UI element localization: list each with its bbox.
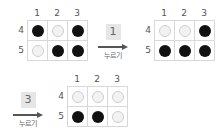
cell-4-3 [108,87,128,107]
action-press-3: 3 누르기 [13,88,43,128]
empty-dot-icon [52,25,64,37]
press-label: 누르기 [98,52,128,60]
column-labels: 1 2 3 [67,74,127,84]
cell-4-2 [88,87,108,107]
filled-dot-icon [159,45,171,57]
column-label: 3 [194,8,214,18]
cell-4-1 [68,87,88,107]
cell-5-3 [108,107,128,127]
filled-dot-icon [199,25,211,37]
column-label: 2 [174,8,194,18]
column-label: 2 [47,8,67,18]
filled-dot-icon [92,111,104,123]
arrow-right-icon [13,112,43,118]
cell-5-3 [68,41,88,61]
cell-5-1 [155,41,175,61]
cell-5-3 [195,41,215,61]
cell-5-1 [28,41,48,61]
toggle-grid [154,20,215,61]
key-badge: 1 [106,24,121,40]
press-label: 누르기 [13,120,43,128]
column-label: 3 [67,8,87,18]
cell-4-1 [155,21,175,41]
action-press-1: 1 누르기 [98,20,128,60]
cell-4-2 [175,21,195,41]
column-label: 1 [154,8,174,18]
filled-dot-icon [32,25,44,37]
row-label: 5 [14,40,24,60]
row-labels: 4 5 [14,20,24,60]
filled-dot-icon [52,45,64,57]
column-label: 1 [67,74,87,84]
row-label: 4 [141,20,151,40]
column-label: 3 [107,74,127,84]
filled-dot-icon [72,111,84,123]
toggle-grid [27,20,88,61]
column-labels: 1 2 3 [154,8,214,18]
empty-dot-icon [159,25,171,37]
filled-dot-icon [72,25,84,37]
empty-dot-icon [32,45,44,57]
cell-5-2 [175,41,195,61]
cell-5-2 [48,41,68,61]
row-labels: 4 5 [141,20,151,60]
empty-dot-icon [112,91,124,103]
row-label: 4 [14,20,24,40]
row-label: 5 [141,40,151,60]
empty-dot-icon [92,91,104,103]
key-badge: 3 [21,92,36,108]
empty-dot-icon [112,111,124,123]
filled-dot-icon [179,45,191,57]
row-label: 4 [54,86,64,106]
filled-dot-icon [72,45,84,57]
cell-4-3 [68,21,88,41]
row-label: 5 [54,106,64,126]
row-labels: 4 5 [54,86,64,126]
cell-5-1 [68,107,88,127]
toggle-grid [67,86,128,127]
column-labels: 1 2 3 [27,8,87,18]
filled-dot-icon [199,45,211,57]
empty-dot-icon [72,91,84,103]
arrow-right-icon [98,44,128,50]
column-label: 1 [27,8,47,18]
column-label: 2 [87,74,107,84]
cell-5-2 [88,107,108,127]
empty-dot-icon [179,25,191,37]
cell-4-2 [48,21,68,41]
cell-4-3 [195,21,215,41]
cell-4-1 [28,21,48,41]
